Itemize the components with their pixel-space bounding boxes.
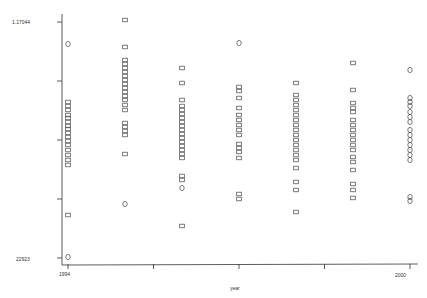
data-point-square <box>351 128 356 132</box>
data-point-square <box>66 135 71 139</box>
data-point-square <box>237 123 242 127</box>
data-point-square <box>294 113 299 117</box>
data-point-square <box>237 156 242 160</box>
data-point-circle <box>66 41 70 46</box>
data-point-square <box>180 178 185 182</box>
data-point-circle <box>66 254 70 259</box>
data-point-square <box>351 143 356 147</box>
data-point-square <box>180 224 185 228</box>
data-point-square <box>180 140 185 144</box>
data-point-square <box>66 213 71 217</box>
data-point-square <box>123 98 128 102</box>
data-point-square <box>180 128 185 132</box>
data-point-square <box>237 192 242 196</box>
data-point-circle <box>180 185 184 190</box>
data-point-square <box>294 158 299 162</box>
data-point-square <box>66 104 71 108</box>
data-point-square <box>66 163 71 167</box>
data-point-square <box>351 61 356 65</box>
data-point-square <box>294 148 299 152</box>
data-point-square <box>237 96 242 100</box>
data-point-square <box>351 133 356 137</box>
data-point-square <box>66 131 71 135</box>
data-point-square <box>351 110 356 114</box>
data-point-square <box>294 128 299 132</box>
x-axis-line <box>62 264 418 265</box>
data-point-square <box>351 101 356 105</box>
data-point-square <box>180 81 185 85</box>
data-point-square <box>123 90 128 94</box>
data-point-square <box>351 106 356 110</box>
data-point-square <box>351 196 356 200</box>
data-point-square <box>180 144 185 148</box>
data-point-square <box>180 116 185 120</box>
data-point-square <box>237 113 242 117</box>
data-point-square <box>237 150 242 154</box>
data-point-square <box>294 166 299 170</box>
data-point-square <box>351 160 356 164</box>
data-point-circle <box>408 157 412 162</box>
data-point-circle <box>408 152 412 157</box>
data-point-circle <box>408 127 412 132</box>
data-point-square <box>66 148 71 152</box>
data-point-square <box>237 89 242 93</box>
data-point-square <box>294 143 299 147</box>
data-point-square <box>123 70 128 74</box>
data-point-square <box>237 197 242 201</box>
data-point-square <box>123 108 128 112</box>
data-point-square <box>180 112 185 116</box>
data-point-square <box>123 125 128 129</box>
data-point-square <box>123 133 128 137</box>
data-point-square <box>180 148 185 152</box>
y-tick-label-bottom: 22923 <box>16 256 30 262</box>
y-ticks <box>57 22 62 258</box>
data-point-square <box>66 143 71 147</box>
data-point-square <box>294 153 299 157</box>
x-tick-label-last: 2000 <box>395 272 406 278</box>
data-point-square <box>351 118 356 122</box>
data-point-circle <box>123 201 127 206</box>
data-point-square <box>66 139 71 143</box>
data-point-square <box>294 118 299 122</box>
data-point-square <box>66 120 71 124</box>
x-tick-label-first: 1994 <box>59 271 70 277</box>
data-point-square <box>351 155 356 159</box>
data-point-square <box>66 100 71 104</box>
data-point-square <box>123 18 128 22</box>
data-point-square <box>123 152 128 156</box>
data-point-square <box>294 180 299 184</box>
data-point-square <box>123 94 128 98</box>
data-point-square <box>123 58 128 62</box>
data-point-square <box>123 129 128 133</box>
data-point-square <box>180 120 185 124</box>
data-point-square <box>180 104 185 108</box>
data-point-square <box>237 128 242 132</box>
data-point-square <box>180 124 185 128</box>
data-point-square <box>237 106 242 110</box>
data-point-square <box>123 78 128 82</box>
data-point-square <box>294 188 299 192</box>
data-point-square <box>180 152 185 156</box>
data-point-square <box>123 82 128 86</box>
data-point-square <box>237 142 242 146</box>
data-point-square <box>123 103 128 107</box>
data-point-square <box>123 121 128 125</box>
x-axis: 1994 2000 year <box>59 264 418 291</box>
data-point-square <box>180 136 185 140</box>
data-point-square <box>66 158 71 162</box>
data-point-square <box>294 81 299 85</box>
data-point-square <box>66 108 71 112</box>
data-point-square <box>237 85 242 89</box>
data-point-square <box>294 133 299 137</box>
data-point-square <box>294 138 299 142</box>
data-point-square <box>294 98 299 102</box>
data-point-square <box>294 123 299 127</box>
data-point-square <box>237 146 242 150</box>
data-point-square <box>351 148 356 152</box>
data-point-circle <box>408 147 412 152</box>
data-point-square <box>351 168 356 172</box>
data-point-square <box>351 188 356 192</box>
data-point-square <box>123 86 128 90</box>
data-point-circle <box>408 142 412 147</box>
data-point-square <box>180 132 185 136</box>
